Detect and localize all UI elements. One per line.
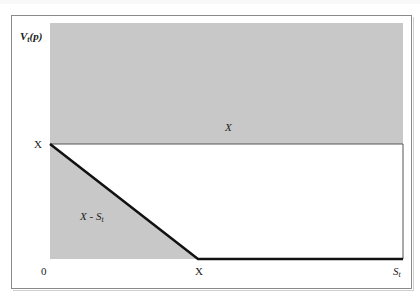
y-axis-label: Vt(p) — [20, 31, 42, 44]
y-tick-label-x: X — [34, 139, 42, 150]
lower-region-label: X - St — [80, 211, 104, 224]
put-payoff-diagram — [0, 0, 420, 300]
upper-region-label: X — [225, 122, 232, 133]
x-axis-label: St — [393, 266, 401, 279]
origin-label: 0 — [41, 266, 47, 277]
x-tick-label-x: X — [195, 266, 203, 277]
